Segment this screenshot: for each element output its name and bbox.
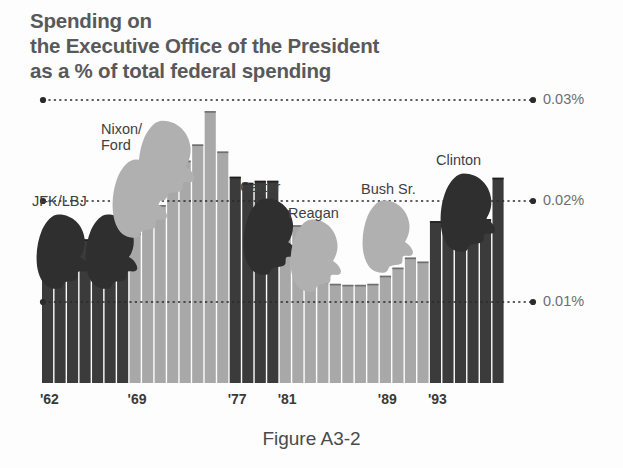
bar xyxy=(417,262,428,383)
x-axis-tick-3: '81 xyxy=(278,391,297,407)
bar xyxy=(180,161,191,383)
gridline-end-dot xyxy=(40,97,46,103)
bar xyxy=(492,178,503,383)
gridline-end-dot xyxy=(530,97,536,103)
figure-caption: Figure A3-2 xyxy=(0,428,623,450)
bar-top-edge xyxy=(192,144,203,146)
annotation-label-ford: Ford xyxy=(101,137,131,153)
bar xyxy=(317,282,328,383)
bar-top-edge xyxy=(367,284,378,286)
annotation-label-nixon: Nixon/ xyxy=(101,121,142,137)
annotation-label-clinton: Clinton xyxy=(436,152,481,168)
gridline-end-dot xyxy=(40,299,46,305)
bar-top-edge xyxy=(205,111,216,113)
annotation-label-bush-sr: Bush Sr. xyxy=(361,181,416,197)
bar-top-edge xyxy=(380,276,391,278)
bar xyxy=(155,205,166,383)
y-axis-label-1: 0.02% xyxy=(543,192,584,208)
bar-top-edge xyxy=(217,152,228,154)
x-axis-tick-4: '89 xyxy=(378,391,397,407)
bar xyxy=(330,284,341,383)
bar xyxy=(480,219,491,383)
bar xyxy=(205,111,216,383)
chart-svg xyxy=(0,0,623,400)
x-axis-tick-1: '69 xyxy=(128,391,147,407)
chart-plot-area: 0.03% 0.02% 0.01% '62 '69 '77 '81 '89 '9… xyxy=(0,0,623,400)
bar xyxy=(342,285,353,383)
gridline-end-dot xyxy=(530,299,536,305)
bar xyxy=(230,177,241,383)
bar-top-edge xyxy=(355,285,366,287)
bar-top-edge xyxy=(430,221,441,223)
bar-top-edge xyxy=(330,284,341,286)
bar-top-edge xyxy=(342,285,353,287)
bar xyxy=(355,285,366,383)
bar xyxy=(455,233,466,383)
bar xyxy=(392,268,403,383)
annotation-label-jfk-lbj: JFK/LBJ xyxy=(32,193,87,209)
x-axis-tick-0: '62 xyxy=(40,391,59,407)
bar-top-edge xyxy=(392,268,403,270)
bar-top-edge xyxy=(405,258,416,260)
y-axis-label-0: 0.03% xyxy=(543,91,584,107)
x-axis-tick-5: '93 xyxy=(428,391,447,407)
bar-top-edge xyxy=(417,262,428,264)
bar xyxy=(380,276,391,383)
bar xyxy=(217,152,228,383)
president-head-icon xyxy=(291,219,341,291)
x-axis-tick-2: '77 xyxy=(228,391,247,407)
annotation-label-carter: Carter xyxy=(240,179,280,195)
bar xyxy=(167,185,178,383)
y-axis-label-2: 0.01% xyxy=(543,293,584,309)
bar xyxy=(405,258,416,383)
bar-top-edge xyxy=(492,178,503,180)
bar xyxy=(130,233,141,383)
bar xyxy=(367,284,378,383)
annotation-label-reagan: Reagan xyxy=(288,205,339,221)
gridline-end-dot xyxy=(530,198,536,204)
